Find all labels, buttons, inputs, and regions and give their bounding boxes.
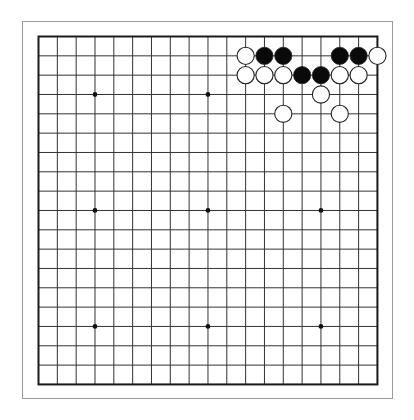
star-point-icon bbox=[206, 92, 211, 97]
white-stone bbox=[237, 47, 254, 64]
black-stone bbox=[256, 47, 273, 64]
black-stone bbox=[312, 67, 329, 84]
white-stone bbox=[312, 86, 329, 103]
black-stone bbox=[294, 67, 311, 84]
white-stone bbox=[275, 67, 292, 84]
black-stone bbox=[331, 47, 348, 64]
go-board-diagram bbox=[0, 0, 414, 420]
stones bbox=[237, 47, 386, 122]
black-stone bbox=[275, 47, 292, 64]
star-point-icon bbox=[93, 208, 98, 213]
white-stone bbox=[331, 67, 348, 84]
go-board[interactable] bbox=[0, 0, 414, 420]
star-point-icon bbox=[93, 324, 98, 329]
star-point-icon bbox=[319, 208, 324, 213]
white-stone bbox=[256, 67, 273, 84]
white-stone bbox=[350, 67, 367, 84]
black-stone bbox=[350, 47, 367, 64]
white-stone bbox=[237, 67, 254, 84]
white-stone bbox=[369, 47, 386, 64]
white-stone bbox=[331, 105, 348, 122]
star-point-icon bbox=[319, 324, 324, 329]
star-point-icon bbox=[206, 208, 211, 213]
star-point-icon bbox=[93, 92, 98, 97]
white-stone bbox=[275, 105, 292, 122]
star-point-icon bbox=[206, 324, 211, 329]
